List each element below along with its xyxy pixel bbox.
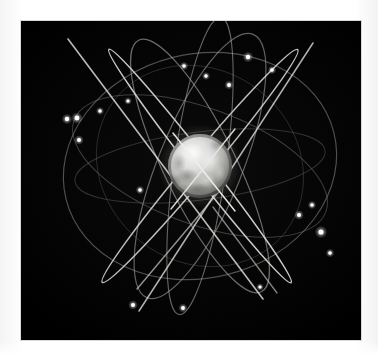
satellite-dot	[182, 64, 186, 68]
satellite-dot	[246, 55, 250, 59]
satellite-dot	[181, 306, 185, 310]
satellite-dot	[270, 68, 274, 72]
satellite-dot	[98, 109, 101, 112]
constellation-scene	[21, 21, 361, 340]
screenshot-canvas: Satellite constellation orbiting a plane…	[0, 0, 378, 361]
satellite-dot	[310, 203, 314, 207]
satellite-dot	[258, 285, 261, 288]
satellite-dot	[227, 83, 231, 87]
satellite-dot	[328, 251, 332, 255]
satellite-dot	[204, 74, 207, 77]
satellite-dot	[126, 99, 129, 102]
satellite-dot	[75, 116, 80, 121]
satellite-dot	[65, 117, 69, 121]
image-plate	[21, 21, 361, 340]
satellite-dot	[131, 303, 135, 307]
satellite-dot	[138, 188, 142, 192]
satellite-dot	[318, 229, 323, 234]
satellite-dot	[297, 213, 301, 217]
satellite-dot	[77, 138, 81, 142]
